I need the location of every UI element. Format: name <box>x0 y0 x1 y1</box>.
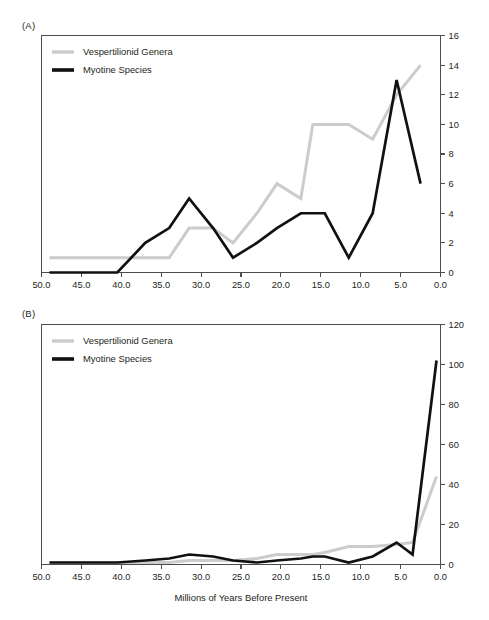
series-myotine-species <box>49 80 420 273</box>
x-axis-title: Millions of Years Before Present <box>175 592 308 603</box>
series-vespertilionid-genera <box>49 477 436 563</box>
y-tick-label: 80 <box>449 400 459 410</box>
y-tick-label: 10 <box>449 120 459 130</box>
y-tick-label: 0 <box>449 268 454 278</box>
x-tick-label: 50.0 <box>32 572 50 582</box>
y-tick-label: 16 <box>449 31 459 41</box>
y-tick-label: 12 <box>449 90 459 100</box>
series-myotine-species <box>49 361 436 563</box>
x-tick-label: 40.0 <box>112 572 130 582</box>
x-tick-label: 15.0 <box>312 572 330 582</box>
panel-a-plot: 50.045.040.035.030.025.020.015.010.05.00… <box>0 0 489 300</box>
x-tick-label: 0.0 <box>434 280 447 290</box>
x-tick-label: 15.0 <box>312 280 330 290</box>
x-tick-label: 50.0 <box>32 280 50 290</box>
legend-label-vespertilionid-genera: Vespertilionid Genera <box>83 335 173 346</box>
y-tick-label: 100 <box>449 360 465 370</box>
y-tick-label: 120 <box>449 320 465 330</box>
x-tick-label: 45.0 <box>72 280 90 290</box>
y-tick-label: 14 <box>449 61 459 71</box>
panel-b-plot: 50.045.040.035.030.025.020.015.010.05.00… <box>0 300 489 620</box>
y-tick-label: 40 <box>449 480 459 490</box>
y-tick-label: 4 <box>449 209 454 219</box>
x-tick-label: 30.0 <box>192 572 210 582</box>
panel-b: (B) 50.045.040.035.030.025.020.015.010.0… <box>0 300 489 620</box>
x-tick-label: 5.0 <box>394 280 407 290</box>
legend-label-myotine-species: Myotine Species <box>83 353 152 364</box>
x-tick-label: 0.0 <box>434 572 447 582</box>
x-tick-label: 10.0 <box>352 280 370 290</box>
figure-root: (A) 50.045.040.035.030.025.020.015.010.0… <box>0 0 489 620</box>
x-tick-label: 40.0 <box>112 280 130 290</box>
y-tick-label: 60 <box>449 440 459 450</box>
y-tick-label: 20 <box>449 520 459 530</box>
y-tick-label: 8 <box>449 149 454 159</box>
x-tick-label: 35.0 <box>152 572 170 582</box>
x-tick-label: 25.0 <box>232 280 250 290</box>
x-tick-label: 5.0 <box>394 572 407 582</box>
x-tick-label: 45.0 <box>72 572 90 582</box>
x-tick-label: 20.0 <box>272 572 290 582</box>
x-tick-label: 20.0 <box>272 280 290 290</box>
x-tick-label: 25.0 <box>232 572 250 582</box>
x-tick-label: 30.0 <box>192 280 210 290</box>
x-tick-label: 35.0 <box>152 280 170 290</box>
x-tick-label: 10.0 <box>352 572 370 582</box>
y-tick-label: 2 <box>449 238 454 248</box>
y-tick-label: 0 <box>449 560 454 570</box>
panel-a: (A) 50.045.040.035.030.025.020.015.010.0… <box>0 0 489 300</box>
legend-label-myotine-species: Myotine Species <box>83 64 152 75</box>
y-tick-label: 6 <box>449 179 454 189</box>
legend-label-vespertilionid-genera: Vespertilionid Genera <box>83 46 173 57</box>
